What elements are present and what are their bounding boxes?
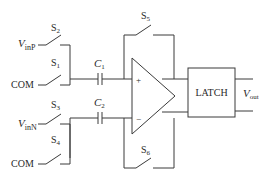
latch-block: LATCH: [188, 68, 235, 117]
svg-text:S2: S2: [51, 22, 61, 35]
svg-text:S4: S4: [51, 134, 61, 147]
svg-text:C1: C1: [94, 57, 105, 71]
svg-text:LATCH: LATCH: [195, 87, 227, 98]
vinp-label: VinP: [18, 37, 36, 52]
com1-label: COM: [11, 79, 34, 90]
svg-text:S1: S1: [51, 57, 61, 70]
switch-s4: S4: [38, 118, 70, 164]
vinn-label: VinN: [18, 117, 37, 132]
svg-text:−: −: [136, 114, 141, 124]
svg-text:S5: S5: [141, 10, 151, 23]
svg-text:S6: S6: [141, 144, 151, 157]
vout-label: Vout: [243, 87, 259, 101]
switch-s3: S3: [38, 99, 70, 158]
switch-s2: S2: [38, 22, 70, 51]
capacitor-c2: C2: [94, 96, 105, 124]
comparator-opamp: + −: [132, 58, 175, 134]
switch-s1: S1: [38, 51, 70, 85]
svg-text:+: +: [136, 75, 141, 85]
capacitor-c1: C1: [94, 57, 105, 85]
com2-label: COM: [11, 158, 34, 169]
circuit-diagram: VinP COM VinN COM S2 S1 C1 S3 S4: [0, 0, 265, 178]
svg-text:C2: C2: [94, 96, 105, 110]
svg-text:S3: S3: [51, 99, 61, 112]
